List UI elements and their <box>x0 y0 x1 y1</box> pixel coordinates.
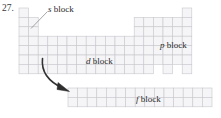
d-to-f-arrowhead <box>57 83 70 92</box>
f-block-label: f block <box>136 95 161 104</box>
problem-number: 27. <box>2 4 14 14</box>
p-block-word: block <box>165 40 187 50</box>
d-block-label: d block <box>86 57 113 66</box>
table-row-3 <box>19 27 192 36</box>
d-block-word: block <box>91 56 113 66</box>
s-block-label: s block <box>48 5 74 14</box>
f-block-word: block <box>139 94 161 104</box>
table-row-2 <box>19 17 192 26</box>
figure-canvas: 27. s block p block d block f block <box>0 0 221 118</box>
table-row-1 <box>19 8 192 17</box>
s-block-word: block <box>52 4 74 14</box>
p-block-label: p block <box>160 41 187 50</box>
